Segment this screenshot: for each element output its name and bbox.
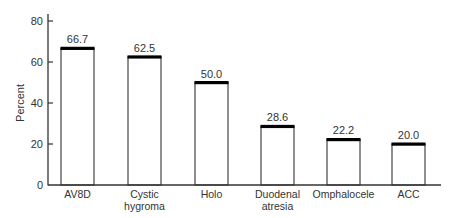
bar-cap xyxy=(128,55,162,58)
bar-cap xyxy=(195,81,229,84)
bar-cystic-hygroma: 62.5Cystichygroma xyxy=(124,42,165,212)
bar-value-label: 50.0 xyxy=(201,68,222,80)
x-category-label: atresia xyxy=(262,200,294,212)
x-category-label: Duodenal xyxy=(255,188,300,200)
y-axis-title: Percent xyxy=(14,84,26,122)
y-tick-label: 60 xyxy=(31,56,43,68)
bar-cap xyxy=(61,47,95,50)
bar-cap xyxy=(392,143,426,146)
bar-av8d: 66.7AV8D xyxy=(61,33,95,200)
bar-value-label: 66.7 xyxy=(67,33,88,45)
bar-rect xyxy=(128,57,161,185)
bar-cap xyxy=(327,138,361,141)
bar-cap xyxy=(261,125,295,128)
x-category-label: ACC xyxy=(397,188,420,200)
bar-rect xyxy=(195,83,228,186)
x-category-label: hygroma xyxy=(124,200,165,212)
bar-chart: 020406080 66.7AV8D62.5Cystichygroma50.0H… xyxy=(0,0,451,218)
y-tick-label: 80 xyxy=(31,15,43,27)
bar-holo: 50.0Holo xyxy=(195,68,229,201)
bar-value-label: 22.2 xyxy=(333,124,354,136)
bar-acc: 20.0ACC xyxy=(392,129,426,200)
x-category-label: Holo xyxy=(201,188,223,200)
y-tick-label: 0 xyxy=(37,179,43,191)
bar-value-label: 28.6 xyxy=(267,111,288,123)
x-category-label: AV8D xyxy=(64,188,91,200)
y-tick-label: 40 xyxy=(31,97,43,109)
x-category-label: Omphalocele xyxy=(313,188,375,200)
x-category-label: Cystic xyxy=(130,188,159,200)
bar-rect xyxy=(327,139,360,185)
bar-rect xyxy=(392,144,425,185)
bar-rect xyxy=(261,126,294,185)
bar-value-label: 62.5 xyxy=(134,42,155,54)
y-axis: 020406080 xyxy=(31,14,53,191)
bar-omphalocele: 22.2Omphalocele xyxy=(313,124,375,200)
bar-value-label: 20.0 xyxy=(398,129,419,141)
bar-duodenal-atresia: 28.6Duodenalatresia xyxy=(255,111,300,212)
y-tick-label: 20 xyxy=(31,138,43,150)
bar-rect xyxy=(61,48,94,185)
